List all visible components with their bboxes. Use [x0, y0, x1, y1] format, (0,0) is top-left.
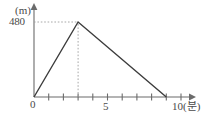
x-axis-unit-label: 10(분) [172, 101, 200, 112]
distance-time-graph-figure: (m) 480 0 5 10(분) [0, 0, 211, 121]
y-axis-tick-label-480: 480 [9, 16, 25, 27]
y-axis [31, 3, 38, 97]
origin-label: 0 [30, 99, 36, 110]
data-series-line [34, 22, 166, 97]
y-axis-arrow-icon [31, 3, 38, 10]
x-axis-tick-label-5: 5 [103, 101, 109, 112]
